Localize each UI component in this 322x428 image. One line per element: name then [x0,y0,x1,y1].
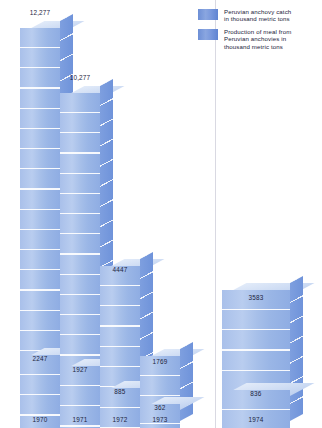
bar-group-1972: 4447 885 1972 [100,0,140,428]
year-label-1972: 1972 [100,416,140,423]
plot-area: 12,277 2247 1970 10,277 1927 1971 [0,0,215,428]
bar-group-1971: 10,277 1927 1971 [60,0,100,428]
year-label-1971: 1971 [60,416,100,423]
bar-group-1974: 3583 836 1974 [222,0,290,428]
bar-catch-1971-value: 10,277 [60,74,100,81]
year-label-1974: 1974 [222,416,290,423]
year-label-1973: 1973 [140,416,180,423]
chart-root: Peruvian anchovy catch in thousand metri… [0,0,322,428]
year-label-1970: 1970 [20,416,60,423]
bar-catch-1974-side-face [290,276,303,421]
bar-group-1970: 12,277 2247 1970 [20,0,60,428]
bar-group-1973: 1769 362 1973 [140,0,180,428]
vertical-divider-rule [215,0,216,428]
bar-catch-1970-value: 12,277 [20,9,60,16]
bar-catch-1973-side-face [180,342,193,421]
